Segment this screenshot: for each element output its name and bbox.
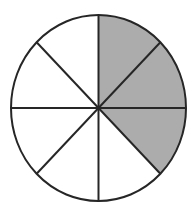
pie-chart-svg xyxy=(0,0,196,210)
fraction-circle-figure xyxy=(0,0,196,210)
